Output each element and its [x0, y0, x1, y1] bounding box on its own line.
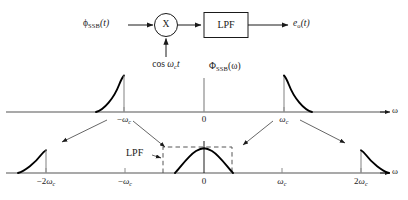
- local-oscillator-label: cos ωct: [152, 60, 179, 70]
- top-xtick-label-neg-wc: −ωc: [117, 115, 131, 125]
- lpf-passband-callout-label: LPF: [126, 148, 143, 158]
- bottom-xtick-label-neg-wc: −ωc: [118, 177, 132, 187]
- block-diagram-lines: [128, 13, 288, 58]
- arrow-to-minus-2wc-lobe: [62, 120, 107, 142]
- bottom-xtick-label-pos-wc: ωc: [277, 177, 286, 187]
- arrow-to-baseband-lobe-right: [243, 121, 273, 145]
- bottom-xtick-label-zero: 0: [202, 177, 207, 186]
- bottom-spectrum-plot: [6, 141, 390, 173]
- top-xtick-label-pos-wc: ωc: [279, 115, 288, 125]
- figure-vector-layer: [0, 0, 408, 200]
- arrow-to-plus-2wc-lobe: [300, 120, 345, 143]
- bottom-xtick-label-neg-2wc: −2ωc: [37, 177, 56, 187]
- bottom-xtick-label-pos-2wc: 2ωc: [354, 177, 368, 187]
- top-xtick-label-zero: 0: [202, 115, 207, 124]
- input-signal-label: ϕSSB(t): [83, 19, 109, 29]
- ssb-demodulation-figure: ϕSSB(t) X LPF cos ωct eo(t) ΦSSB(ω) −ωc …: [0, 0, 408, 200]
- multiplier-symbol: X: [163, 20, 170, 30]
- bottom-axis-label-omega: ω: [392, 167, 398, 176]
- top-spectrum-plot: [6, 76, 390, 113]
- bottom-lobe-minus-2wc: [18, 150, 46, 173]
- top-spectrum-title: ΦSSB(ω): [209, 62, 241, 72]
- top-lobe-positive-sideband: [284, 76, 312, 113]
- top-axis-label-omega: ω: [392, 106, 398, 115]
- bottom-lobe-plus-2wc: [361, 150, 389, 173]
- output-signal-label: eo(t): [293, 19, 310, 29]
- top-lobe-negative-sideband: [96, 76, 124, 113]
- arrow-to-baseband-lobe-left: [133, 121, 165, 147]
- lpf-block-label: LPF: [217, 20, 234, 30]
- lpf-callout-arrow: [152, 155, 161, 158]
